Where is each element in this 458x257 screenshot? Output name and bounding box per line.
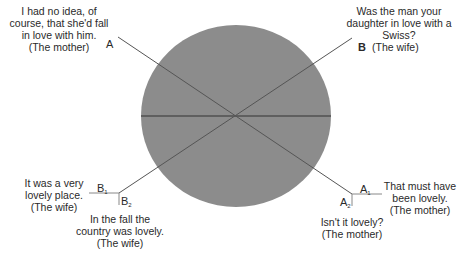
- quote-b1: It was a very lovely place. (The wife): [18, 177, 90, 213]
- marker-b1-sub: 1: [104, 189, 107, 195]
- quote-line: course, that she'd fall: [4, 17, 114, 29]
- quote-line: Isn't it lovely?: [312, 216, 392, 228]
- quote-line: (The mother): [312, 228, 392, 240]
- marker-a1: A1: [360, 183, 371, 199]
- quote-line: I had no idea, of: [4, 5, 114, 17]
- quote-line: It was a very: [18, 177, 90, 189]
- quote-a2: Isn't it lovely? (The mother): [312, 216, 392, 240]
- quote-top-right: Was the man your daughter in love with a…: [340, 5, 458, 41]
- quote-a1: That must have been lovely. (The mother): [382, 180, 458, 216]
- marker-a: A: [106, 38, 113, 50]
- marker-b2-sub: 2: [128, 202, 131, 208]
- quote-top-left: I had no idea, of course, that she'd fal…: [4, 5, 114, 53]
- quote-line: (The wife): [18, 201, 90, 213]
- quote-line: (The mother): [4, 41, 114, 53]
- quote-line: daughter in love with a: [340, 17, 458, 29]
- marker-a1-sub: 1: [367, 190, 370, 196]
- quote-line: In the fall the: [72, 213, 168, 225]
- quote-line: (The wife): [372, 41, 419, 53]
- quote-line: Swiss?: [340, 29, 458, 41]
- marker-b1: B1: [97, 182, 108, 198]
- quote-line: country was lovely.: [72, 225, 168, 237]
- quote-line: Was the man your: [340, 5, 458, 17]
- marker-a2: A2: [340, 196, 351, 212]
- quote-top-right-speaker: (The wife): [372, 41, 432, 53]
- marker-b2: B2: [121, 195, 132, 211]
- quote-line: (The wife): [72, 237, 168, 249]
- marker-a2-sub: 2: [347, 203, 350, 209]
- quote-line: in love with him.: [4, 29, 114, 41]
- quote-line: lovely place.: [18, 189, 90, 201]
- quote-line: That must have: [382, 180, 458, 192]
- marker-b: B: [358, 41, 366, 53]
- quote-b2: In the fall the country was lovely. (The…: [72, 213, 168, 249]
- quote-line: (The mother): [382, 204, 458, 216]
- quote-line: been lovely.: [382, 192, 458, 204]
